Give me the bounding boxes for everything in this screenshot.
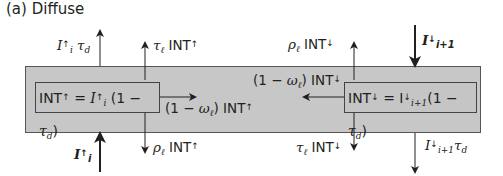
int-label: INT (165, 139, 192, 155)
up-arrow-icon: ↑ (245, 102, 253, 112)
int-label: INT (164, 37, 191, 53)
int-label: INT (300, 36, 327, 52)
subscript: d (85, 45, 91, 55)
label-rho-int-up: ρℓ INT↑ (153, 139, 199, 157)
suffix: ) INT (302, 72, 334, 88)
suffix: ) INT (214, 100, 246, 116)
label-absorbed-down: (1 − ωℓ) INT↓ (253, 72, 341, 90)
subscript: i (70, 45, 73, 55)
down-arrow-icon: ↓ (430, 139, 438, 149)
label-rho-int-down: ρℓ INT↓ (288, 36, 334, 54)
tau-symbol: τ (77, 37, 84, 53)
subscript: i (88, 153, 91, 164)
rho-symbol: ρ (153, 139, 161, 155)
down-arrow-icon: ↓ (334, 141, 342, 151)
label-incident-down: I↓i+1 (422, 32, 455, 50)
label-tau-int-up: τℓ INT↑ (153, 37, 198, 55)
label-tau-int-down: τℓ INT↓ (296, 139, 341, 157)
omega-symbol: ω (199, 100, 210, 116)
tau-symbol: τ (454, 137, 461, 153)
down-arrow-icon: ↓ (428, 34, 436, 44)
up-arrow-icon: ↑ (62, 39, 70, 49)
up-arrow-icon: ↑ (80, 148, 88, 158)
prefix: (1 − (165, 100, 199, 116)
omega-symbol: ω (287, 72, 298, 88)
label-incident-up: I↑i (74, 146, 91, 164)
label-transmitted-up: I↑i τd (57, 37, 90, 55)
subscript: i+1 (436, 39, 455, 50)
down-arrow-icon: ↓ (333, 74, 341, 84)
label-transmitted-down: I↓i+1τd (425, 137, 467, 155)
int-label: INT (307, 139, 334, 155)
up-arrow-icon: ↑ (191, 141, 199, 151)
down-arrow-icon: ↓ (326, 38, 334, 48)
subscript: i+1 (438, 145, 454, 155)
rho-symbol: ρ (288, 36, 296, 52)
prefix: (1 − (253, 72, 287, 88)
subscript: d (462, 145, 468, 155)
up-arrow-icon: ↑ (191, 39, 199, 49)
label-absorbed-up: (1 − ωℓ) INT↑ (165, 100, 253, 118)
